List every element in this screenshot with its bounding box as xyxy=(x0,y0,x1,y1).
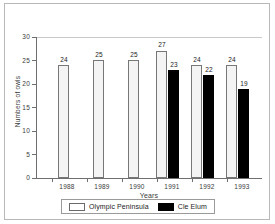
bar-value-olympic-peninsula-1991: 27 xyxy=(150,41,174,49)
x-tick-1 xyxy=(87,178,88,182)
x-tick-3 xyxy=(157,178,158,182)
filled-square-swatch-icon xyxy=(158,203,174,211)
x-tick-label-1993: 1993 xyxy=(227,183,257,191)
bar-value-olympic-peninsula-1993: 24 xyxy=(220,56,244,64)
bar-cle-elum-1993 xyxy=(238,89,249,178)
y-tick-0 xyxy=(32,178,37,179)
y-tick-label-0: 0 xyxy=(8,174,30,181)
bar-olympic-peninsula-1990 xyxy=(128,60,139,178)
y-tick-30 xyxy=(32,37,37,38)
x-axis-line xyxy=(36,178,262,179)
legend-label-olympic-peninsula: Olympic Peninsula xyxy=(89,203,149,210)
y-tick-10 xyxy=(32,131,37,132)
x-tick-label-1988: 1988 xyxy=(52,183,82,191)
bar-olympic-peninsula-1991 xyxy=(156,51,167,178)
legend-item-cle-elum: Cle Elum xyxy=(158,203,207,211)
bar-value-cle-elum-1992: 22 xyxy=(197,66,221,74)
x-tick-label-1991: 1991 xyxy=(157,183,187,191)
bar-olympic-peninsula-1989 xyxy=(93,60,104,178)
chart-legend: Olympic Peninsula Cle Elum xyxy=(61,199,215,214)
y-axis-title: Numbers of owls xyxy=(14,57,21,147)
x-tick-2 xyxy=(122,178,123,182)
y-tick-15 xyxy=(32,107,37,108)
bar-olympic-peninsula-1992 xyxy=(191,65,202,178)
bar-value-olympic-peninsula-1990: 25 xyxy=(122,51,146,59)
x-tick-label-1989: 1989 xyxy=(87,183,117,191)
x-tick-4 xyxy=(192,178,193,182)
bar-cle-elum-1992 xyxy=(203,75,214,178)
x-tick-5 xyxy=(227,178,228,182)
x-axis-title: Years xyxy=(36,192,262,199)
bar-value-cle-elum-1993: 19 xyxy=(232,80,256,88)
x-tick-label-1992: 1992 xyxy=(192,183,222,191)
bar-chart: 30 25 20 15 10 5 0 Numbers of owls 1988 … xyxy=(0,0,275,224)
y-tick-20 xyxy=(32,84,37,85)
open-square-swatch-icon xyxy=(69,203,85,211)
y-tick-label-30: 30 xyxy=(8,33,30,40)
bar-value-olympic-peninsula-1989: 25 xyxy=(87,51,111,59)
legend-label-cle-elum: Cle Elum xyxy=(178,203,207,210)
y-tick-label-5: 5 xyxy=(8,151,30,158)
bar-value-olympic-peninsula-1988: 24 xyxy=(52,56,76,64)
y-tick-25 xyxy=(32,60,37,61)
bar-value-olympic-peninsula-1992: 24 xyxy=(185,56,209,64)
bar-olympic-peninsula-1988 xyxy=(58,65,69,178)
plot-top-border xyxy=(36,37,262,38)
legend-item-olympic-peninsula: Olympic Peninsula xyxy=(69,203,149,211)
x-tick-label-1990: 1990 xyxy=(122,183,152,191)
bar-cle-elum-1991 xyxy=(168,70,179,178)
bar-value-cle-elum-1991: 23 xyxy=(162,61,186,69)
y-tick-5 xyxy=(32,154,37,155)
x-tick-0 xyxy=(52,178,53,182)
